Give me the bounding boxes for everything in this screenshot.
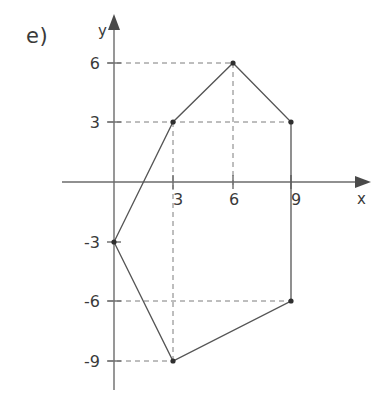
x-tick-label-3: 3 — [173, 190, 183, 209]
x-tick-label-9: 9 — [291, 190, 301, 209]
vertex-point-f — [170, 358, 175, 363]
y-axis-label: y — [98, 22, 107, 40]
vertex-point-b — [170, 119, 175, 124]
x-tick-label-6: 6 — [229, 190, 239, 209]
y-tick-label-3: 3 — [90, 113, 100, 132]
coordinate-plane-figure: e) — [0, 0, 386, 399]
plot-svg — [0, 0, 386, 399]
vertex-markers-group — [111, 60, 293, 363]
vertex-point-d — [288, 119, 293, 124]
tick-marks-group — [107, 63, 291, 361]
y-tick-label-minus9: -9 — [84, 352, 100, 371]
y-tick-label-minus3: -3 — [84, 233, 100, 252]
y-tick-label-6: 6 — [90, 54, 100, 73]
guide-lines-group — [108, 63, 291, 361]
vertex-point-e — [288, 298, 293, 303]
arrow-right-icon — [355, 176, 371, 188]
vertex-point-c — [230, 60, 235, 65]
x-axis-label: x — [357, 190, 366, 208]
vertex-point-a — [111, 239, 116, 244]
axes-group — [62, 26, 356, 390]
polygon-shape — [114, 63, 291, 361]
y-tick-label-minus6: -6 — [84, 292, 100, 311]
arrow-up-icon — [108, 14, 120, 30]
